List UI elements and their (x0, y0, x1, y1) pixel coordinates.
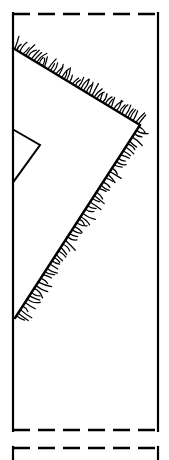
figure-canvas (0, 0, 169, 460)
main-panel-fill (13, 14, 158, 430)
main-panel (13, 13, 158, 431)
technical-drawing-figure (0, 0, 169, 460)
